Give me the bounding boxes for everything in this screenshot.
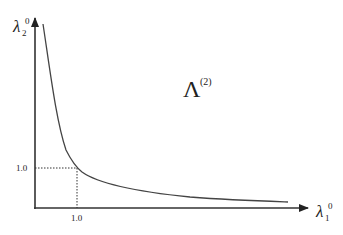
y-axis-label-sup: 0 [25, 16, 30, 26]
region-label-superscript: (2) [200, 76, 212, 88]
x-axis-label-sub: 1 [325, 213, 330, 223]
x-axis-label-sup: 0 [328, 201, 333, 211]
y-axis-label-sub: 2 [22, 28, 27, 38]
region-label: Λ [183, 76, 201, 102]
diagram-canvas: λ 2 0 λ 1 0 1.0 1.0 Λ (2) [0, 0, 343, 235]
boundary-curve [43, 24, 288, 202]
y-tick-1: 1.0 [16, 163, 28, 173]
y-axis-label: λ [12, 17, 20, 36]
x-axis-label: λ [315, 202, 323, 221]
x-tick-1: 1.0 [71, 213, 83, 223]
